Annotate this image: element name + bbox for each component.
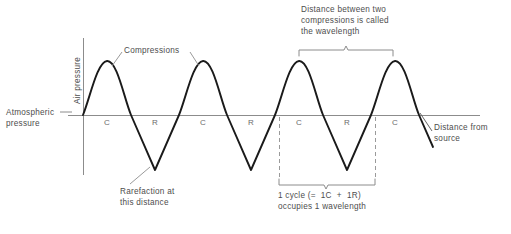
baseline-marker-r: R bbox=[148, 118, 162, 127]
baseline-marker-r: R bbox=[340, 118, 354, 127]
rarefaction-leader-line bbox=[130, 167, 150, 184]
baseline-marker-c: C bbox=[292, 118, 306, 127]
cycle-bracket bbox=[279, 179, 375, 189]
wavelength-bracket bbox=[299, 46, 393, 56]
wave-plot-svg bbox=[0, 0, 511, 234]
atmospheric-pressure-label: Atmospheric pressure bbox=[6, 107, 54, 129]
baseline-marker-r: R bbox=[244, 118, 258, 127]
baseline-marker-c: C bbox=[100, 118, 114, 127]
pressure-wave-diagram: Air pressure Atmospheric pressure Compre… bbox=[0, 0, 511, 234]
wavelength-note-label: Distance between two compressions is cal… bbox=[301, 4, 389, 37]
baseline-marker-c: C bbox=[388, 118, 402, 127]
rarefaction-label: Rarefaction at this distance bbox=[120, 186, 174, 208]
compressions-leader-line-left bbox=[112, 52, 122, 66]
y-axis-label: Air pressure bbox=[72, 57, 83, 104]
x-axis-label: Distance from source bbox=[434, 122, 488, 144]
baseline-marker-c: C bbox=[196, 118, 210, 127]
compressions-leader-line-right bbox=[190, 52, 199, 66]
cycle-note-label: 1 cycle (= 1C + 1R) occupies 1 wavelengt… bbox=[278, 190, 366, 212]
compressions-label: Compressions bbox=[124, 45, 179, 56]
